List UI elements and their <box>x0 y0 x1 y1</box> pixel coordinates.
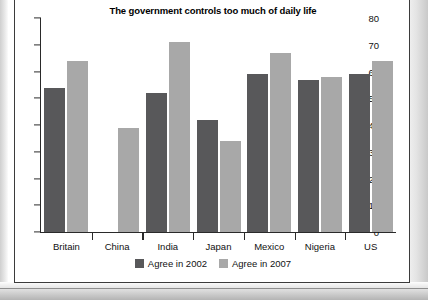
bar-japan-1 <box>220 141 241 232</box>
y-axis-tick-mark <box>34 231 41 232</box>
plot-area <box>41 18 396 232</box>
bar-us-0 <box>349 74 370 232</box>
x-axis-label-india: India <box>157 241 178 252</box>
x-axis-tick-mark <box>142 233 143 240</box>
bar-mexico-1 <box>270 53 291 232</box>
bar-nigeria-0 <box>298 80 319 232</box>
x-axis-line <box>40 232 396 233</box>
bar-britain-1 <box>67 61 88 232</box>
x-axis-tick-mark <box>345 233 346 240</box>
y-axis-tick-mark <box>34 17 41 18</box>
page-edge-bottom <box>0 282 428 300</box>
x-axis-label-nigeria: Nigeria <box>305 241 335 252</box>
x-axis-label-mexico: Mexico <box>254 241 284 252</box>
x-axis-label-japan: Japan <box>206 241 232 252</box>
y-axis-tick-mark <box>34 151 41 152</box>
bar-china-1 <box>118 128 139 232</box>
chart-frame: The government controls too much of dail… <box>14 0 410 283</box>
legend-item-0: Agree in 2002 <box>135 258 207 269</box>
x-axis-label-britain: Britain <box>53 241 80 252</box>
y-axis-tick-mark <box>34 71 41 72</box>
legend-label: Agree in 2007 <box>232 258 291 269</box>
x-axis-tick-mark <box>244 233 245 240</box>
page-edge-left <box>0 0 8 300</box>
page-bottom-rule <box>0 288 428 289</box>
chart-legend: Agree in 2002Agree in 2007 <box>15 258 411 269</box>
bar-nigeria-1 <box>321 77 342 232</box>
bar-japan-0 <box>197 120 218 232</box>
x-axis-tick-mark <box>295 233 296 240</box>
legend-item-1: Agree in 2007 <box>219 258 291 269</box>
bar-us-1 <box>372 61 393 232</box>
y-axis-tick-mark <box>34 124 41 125</box>
bar-britain-0 <box>44 88 65 232</box>
y-axis-tick-mark <box>34 98 41 99</box>
x-axis-label-china: China <box>105 241 130 252</box>
bar-india-1 <box>169 42 190 232</box>
scanned-page: The government controls too much of dail… <box>0 0 428 300</box>
x-axis-tick-mark <box>92 233 93 240</box>
legend-label: Agree in 2002 <box>148 258 207 269</box>
y-axis-tick-mark <box>34 178 41 179</box>
legend-swatch-icon <box>219 259 228 268</box>
x-axis-label-us: US <box>364 241 377 252</box>
chart-title: The government controls too much of dail… <box>15 5 411 16</box>
bar-india-0 <box>146 93 167 232</box>
legend-swatch-icon <box>135 259 144 268</box>
x-axis-tick-mark <box>193 233 194 240</box>
bar-mexico-0 <box>247 74 268 232</box>
y-axis-tick-mark <box>34 205 41 206</box>
y-axis-tick-mark <box>34 44 41 45</box>
